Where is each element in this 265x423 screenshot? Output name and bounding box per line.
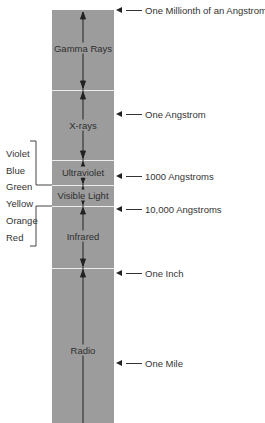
arrow-left-icon [116, 111, 122, 117]
color-label-red: Red [6, 232, 23, 243]
marker-one-millionth-angstrom: One Millionth of an Angstrom [116, 5, 265, 15]
band-label-ultraviolet: Ultraviolet [52, 167, 114, 178]
arrow-left-icon [116, 173, 122, 179]
band-label-gamma-rays: Gamma Rays [52, 43, 114, 54]
marker-one-angstrom: One Angstrom [116, 109, 206, 119]
band-label-radio: Radio [52, 345, 114, 356]
color-label-green: Green [6, 181, 32, 192]
color-label-violet: Violet [6, 148, 30, 159]
color-label-blue: Blue [6, 165, 25, 176]
marker-10000-angstroms: 10,000 Angstroms [116, 204, 222, 214]
arrow-left-icon [116, 206, 122, 212]
arrow-left-icon [116, 360, 122, 366]
color-label-orange: Orange [6, 215, 38, 226]
band-label-visible-light: Visible Light [52, 190, 114, 201]
arrow-left-icon [116, 7, 122, 13]
marker-1000-angstroms: 1000 Angstroms [116, 171, 214, 181]
band-label-x-rays: X-rays [52, 120, 114, 131]
marker-one-inch: One Inch [116, 268, 184, 278]
marker-one-mile: One Mile [116, 358, 183, 368]
arrow-left-icon [116, 270, 122, 276]
band-label-infrared: Infrared [52, 231, 114, 242]
color-label-yellow: Yellow [6, 198, 33, 209]
visible-brackets [30, 141, 52, 246]
